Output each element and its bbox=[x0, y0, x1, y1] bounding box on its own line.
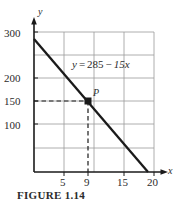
x-tick-label-9: 9 bbox=[84, 177, 90, 188]
x-tick-label-15: 15 bbox=[117, 177, 128, 188]
x-axis-arrowhead bbox=[161, 169, 169, 175]
equation-annotation: y=285−15x bbox=[72, 59, 130, 70]
point-label-p: P bbox=[93, 88, 99, 98]
y-tick-label-150: 150 bbox=[4, 96, 21, 107]
y-axis-arrowhead bbox=[31, 17, 37, 25]
grid-vertical-lines bbox=[64, 32, 154, 172]
equation-intercept: 285 bbox=[87, 58, 104, 70]
point-marker-p bbox=[85, 98, 92, 105]
equation-minus-sign: − bbox=[106, 58, 112, 70]
y-tick-label-200: 200 bbox=[4, 73, 21, 84]
point-guide-lines bbox=[34, 101, 88, 172]
y-axis-label: y bbox=[38, 7, 42, 17]
y-tick-label-100: 100 bbox=[4, 120, 21, 131]
x-axis-label: x bbox=[168, 166, 172, 176]
equation-lhs: y bbox=[72, 58, 77, 70]
x-tick-label-20: 20 bbox=[147, 177, 158, 188]
y-tick-label-300: 300 bbox=[4, 28, 21, 39]
equation-equals-sign: = bbox=[79, 58, 85, 70]
x-tick-label-5: 5 bbox=[60, 177, 66, 188]
figure-container: 300 200 150 100 5 9 15 20 y x P y=285−15… bbox=[0, 0, 177, 212]
equation-slope-term: 15x bbox=[114, 58, 130, 70]
figure-caption: FIGURE 1.14 bbox=[17, 190, 85, 201]
